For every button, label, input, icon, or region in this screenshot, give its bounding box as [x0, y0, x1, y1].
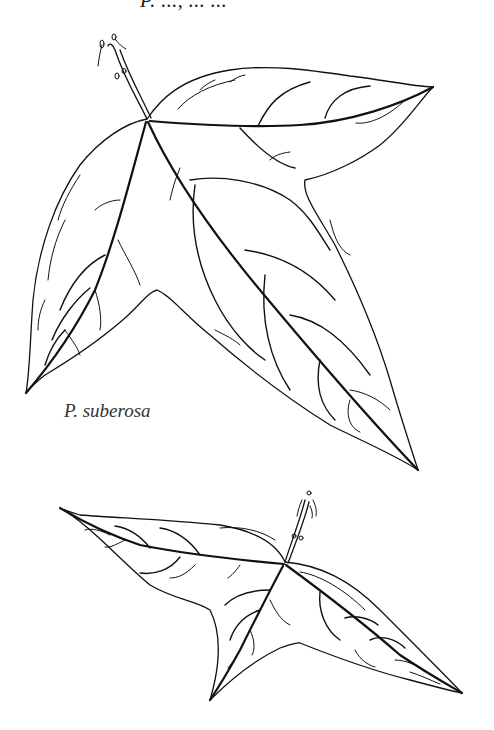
lower-stem-icon [285, 491, 316, 563]
lower-leaf-drawing [0, 0, 494, 730]
figure-canvas: P. ..., ... ... [0, 0, 494, 730]
